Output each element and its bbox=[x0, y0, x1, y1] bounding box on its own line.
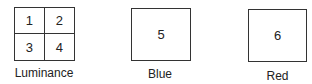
blue-value: 5 bbox=[157, 27, 164, 42]
red-label: Red bbox=[248, 69, 307, 83]
luminance-label: Luminance bbox=[4, 66, 84, 80]
blue-label: Blue bbox=[131, 67, 189, 81]
luminance-cell-3: 3 bbox=[15, 34, 45, 60]
luminance-cell-2: 2 bbox=[45, 8, 75, 34]
luminance-cell-4: 4 bbox=[45, 34, 75, 60]
luminance-grid: 1 2 3 4 bbox=[14, 7, 75, 61]
blue-box: 5 bbox=[131, 8, 191, 61]
luminance-cell-1: 1 bbox=[15, 8, 45, 34]
red-box: 6 bbox=[248, 9, 307, 62]
red-value: 6 bbox=[274, 28, 281, 43]
